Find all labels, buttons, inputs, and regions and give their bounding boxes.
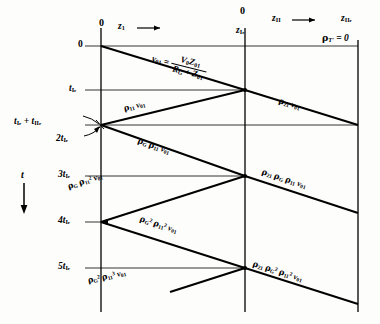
z11-arrow-icon [292,17,315,22]
ticklabel-t0: 0 [78,40,83,50]
ticklabel-2tir: 2tIr [56,134,68,144]
ticklabel-3tir: 3tIr [58,170,70,180]
label-z11: zII [272,14,281,24]
t-axis-arrow-icon [21,183,28,214]
diagram-canvas [0,0,380,324]
label-line1-origin-zero: 0 [99,18,104,28]
label-z11r: zIIr [341,14,352,24]
ticklabel-tir: tIr [69,84,76,94]
label-line2-origin-zero: 0 [240,6,245,16]
node-junction-1 [243,88,247,92]
node-junction-2 [243,174,247,178]
ticklabel-tir-plus-tiir: tIr + tIIr [14,117,41,127]
ray-rhoG-rho11sq [101,176,245,222]
bounce-diagram-figure: 0 z1 0 zIr zII zIIr ρT′ = 0 0 tIr tIr + … [0,0,380,324]
node-junction-3 [243,266,247,270]
label-z1: z1 [118,22,125,32]
ray-transmitted-rho21 [245,90,358,125]
label-time-axis-letter: t [21,170,24,180]
ray-reflected-rho11 [101,90,245,125]
ray-rhoGsq-rho11cub [170,268,245,292]
label-termination-reflection-coefficient: ρT′ = 0 [322,33,349,44]
ray-rhoG-rho11 [101,125,245,176]
leader-2tir [84,126,100,136]
ticklabel-5tir: 5tIr [58,262,70,272]
z1-arrow-icon [137,25,160,30]
label-z1r: zIr [236,26,244,36]
ticklabel-4tir: 4tIr [58,216,70,226]
